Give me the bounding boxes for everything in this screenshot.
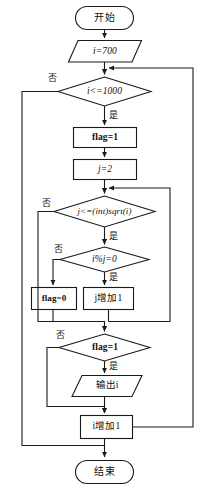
shape-set-flag1 — [74, 128, 137, 148]
shape-cond-j — [54, 196, 155, 227]
shape-output-i — [72, 376, 142, 397]
shape-init-i — [69, 41, 142, 63]
flowchart-graphics — [0, 0, 206, 494]
shape-cond-i — [58, 77, 151, 106]
shape-set-j2 — [74, 160, 137, 180]
shape-inc-i — [81, 416, 133, 439]
edge-loopback-outer — [109, 68, 193, 427]
edge-cond-mod-no — [53, 260, 60, 286]
shape-cond-flag — [59, 334, 150, 361]
flowchart-canvas: 开始 i=700 i<=1000 flag=1 j=2 j<=(int)sqrt… — [0, 0, 206, 494]
edge-cond-j-no — [38, 212, 105, 332]
shape-cond-mod — [60, 247, 149, 272]
shape-end — [76, 461, 134, 484]
shape-start — [76, 7, 134, 30]
shape-inc-j — [84, 288, 134, 310]
